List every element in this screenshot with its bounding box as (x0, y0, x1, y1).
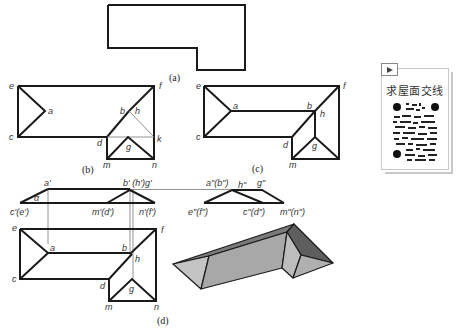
caption-a: (a) (169, 72, 180, 84)
label-g: g (312, 141, 317, 151)
label-e: e (9, 81, 14, 91)
caption-c: (c) (252, 163, 263, 175)
label-b: b (122, 243, 127, 253)
play-icon[interactable] (381, 63, 398, 76)
diagram-c: e f a b h c d g m (c) (196, 81, 347, 175)
label-md-prime: m'(d') (92, 207, 114, 217)
label-g: g (126, 142, 131, 152)
label-mn-dprime: m"(n") (280, 207, 305, 217)
roof-3d-render (173, 224, 333, 289)
label-f: f (161, 225, 165, 235)
label-bhg-prime: b' (h')g' (123, 178, 152, 188)
label-cd-dprime: c"(d") (243, 207, 265, 217)
label-g: g (129, 284, 134, 294)
label-a: a (50, 243, 55, 253)
label-n: n (154, 302, 159, 312)
label-d: d (283, 140, 289, 150)
qr-card-title: 求屋面交线 (382, 82, 448, 98)
diagram-b: e f a b h c d k g m n (b) (9, 81, 163, 176)
label-m: m (289, 160, 297, 170)
label-alpha: α (34, 193, 40, 203)
label-k: k (157, 134, 162, 144)
label-b: b (120, 106, 125, 116)
label-a-prime: a' (44, 178, 51, 188)
label-m: m (105, 302, 113, 312)
label-h: h (320, 109, 325, 119)
diagram-d-top-view: e f a b h c d g m n (d) (12, 223, 169, 327)
label-d: d (97, 138, 103, 148)
diagram-a-outline: (a) (108, 5, 245, 84)
caption-d: (d) (157, 315, 169, 327)
qr-code-image (392, 102, 440, 162)
label-b: b (307, 101, 312, 111)
label-ab-dprime: a"(b") (206, 178, 228, 188)
label-c: c (9, 132, 14, 142)
label-f: f (343, 81, 347, 91)
label-nf-prime: n'(f') (139, 207, 156, 217)
label-h: h (135, 106, 140, 116)
label-n: n (152, 160, 157, 170)
label-a: a (48, 106, 53, 116)
label-c: c (196, 132, 201, 142)
label-d: d (100, 281, 106, 291)
label-e: e (12, 223, 17, 233)
diagram-d-side-view: a"(b") h" g" e"(f") c"(d") m"(n") (188, 178, 305, 217)
label-h-dprime: h" (238, 180, 247, 190)
label-g-dprime: g" (257, 178, 266, 188)
label-ce-prime: c'(e') (10, 207, 29, 217)
label-f: f (159, 81, 163, 91)
label-ef-dprime: e"(f") (188, 207, 208, 217)
label-c: c (12, 274, 17, 284)
label-a: a (233, 101, 238, 111)
caption-b: (b) (82, 164, 94, 176)
qr-card[interactable]: 求屋面交线 (381, 68, 449, 170)
label-m: m (103, 160, 111, 170)
label-h: h (135, 254, 140, 264)
label-e: e (196, 81, 201, 91)
